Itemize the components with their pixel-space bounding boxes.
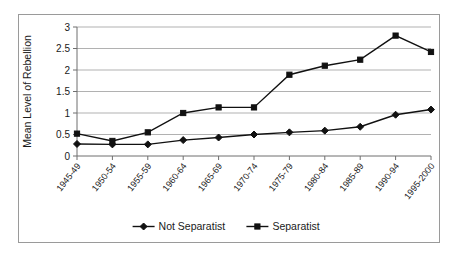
x-tick-label: 1995-2000: [402, 161, 436, 201]
legend-label: Separatist: [272, 220, 319, 232]
data-point-square: [358, 57, 363, 62]
y-tick-label: 0.5: [56, 129, 70, 140]
chart-frame: 00.511.522.53 1945-491950-541955-591960-…: [18, 14, 440, 243]
data-point-diamond: [74, 140, 81, 147]
data-point-square: [181, 110, 186, 115]
y-tick-label: 3: [64, 22, 70, 33]
legend-label: Not Separatist: [159, 220, 226, 232]
y-axis-title: Mean Level of Rebellion: [21, 35, 33, 148]
x-tick-label: 1965-69: [196, 161, 224, 193]
data-point-diamond: [357, 123, 364, 130]
x-tick-label: 1960-64: [161, 161, 189, 193]
y-tick-label: 1.5: [56, 86, 70, 97]
x-tick-label: 1985-89: [338, 161, 366, 193]
line-chart: 00.511.522.53 1945-491950-541955-591960-…: [19, 15, 439, 242]
y-tick-label: 2.5: [56, 43, 70, 54]
y-tick-label: 0: [64, 151, 70, 162]
data-point-square: [216, 105, 221, 110]
x-tick-label: 1945-49: [54, 161, 82, 193]
data-point-square: [74, 131, 79, 136]
y-axis-title-group: Mean Level of Rebellion: [21, 35, 33, 148]
data-point-square: [255, 224, 260, 229]
data-point-square: [322, 63, 327, 68]
data-point-diamond: [428, 106, 435, 113]
data-point-square: [428, 49, 433, 54]
data-point-diamond: [392, 111, 399, 118]
gridlines-group: [77, 27, 431, 135]
data-point-diamond: [321, 127, 328, 134]
data-point-square: [393, 33, 398, 38]
x-axis-ticks-group: [77, 156, 431, 160]
series-not-separatist: [74, 106, 435, 148]
data-point-diamond: [251, 131, 258, 138]
y-tick-label: 2: [64, 65, 70, 76]
data-point-diamond: [140, 223, 147, 230]
data-point-square: [110, 138, 115, 143]
x-tick-label: 1990-94: [373, 161, 401, 193]
data-point-square: [251, 105, 256, 110]
data-point-square: [287, 72, 292, 77]
y-tick-label: 1: [64, 108, 70, 119]
data-point-diamond: [180, 137, 187, 144]
x-tick-label: 1950-54: [90, 161, 118, 193]
x-axis-labels-group: 1945-491950-541955-591960-641965-691970-…: [54, 161, 436, 201]
chart-legend: Not SeparatistSeparatist: [133, 220, 320, 232]
legend-item-not-separatist[interactable]: Not Separatist: [133, 220, 226, 232]
x-tick-label: 1970-74: [231, 161, 259, 193]
series-group: [74, 33, 435, 148]
series-separatist: [74, 33, 433, 144]
y-axis-ticks-group: 00.511.522.53: [56, 22, 77, 162]
figure-container: 00.511.522.53 1945-491950-541955-591960-…: [0, 0, 456, 261]
data-point-diamond: [144, 141, 151, 148]
x-tick-label: 1980-84: [302, 161, 330, 193]
data-point-diamond: [215, 134, 222, 141]
data-point-square: [145, 130, 150, 135]
x-tick-label: 1955-59: [125, 161, 153, 193]
legend-item-separatist[interactable]: Separatist: [246, 220, 319, 232]
series-line: [77, 36, 431, 141]
series-line: [77, 110, 431, 145]
x-tick-label: 1975-79: [267, 161, 295, 193]
